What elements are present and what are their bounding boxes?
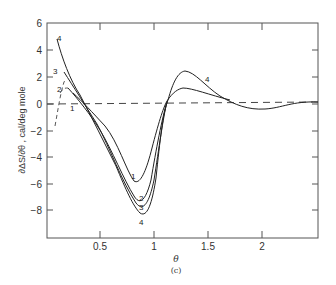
y-tick-label: 2 [36, 72, 42, 83]
y-tick-label: 6 [36, 18, 42, 29]
curve-label-1-min: 1 [131, 172, 136, 181]
curve-label-4-right: 4 [205, 75, 210, 84]
y-tick-label: −4 [31, 152, 43, 163]
curve-label-4-left: 4 [57, 34, 62, 43]
y-axis-right [312, 50, 318, 210]
curve-3 [64, 72, 167, 207]
x-tick-label: 1.5 [201, 241, 215, 252]
curve-label-3-left: 3 [53, 67, 58, 76]
y-tick-labels: 6 4 2 0 −2 −4 −6 −8 [31, 18, 43, 216]
chart: 6 4 2 0 −2 −4 −6 −8 0.5 1 1.5 2 ∂ΔS/∂θ ,… [0, 0, 336, 285]
y-axis-label: ∂ΔS/∂θ , cal/deg mole [17, 87, 27, 174]
y-tick-label: −6 [31, 179, 43, 190]
x-axis [100, 23, 262, 238]
zero-reference-line [47, 102, 318, 104]
curve-label-4-min: 4 [139, 218, 144, 227]
x-tick-label: 0.5 [93, 241, 107, 252]
plot-frame [47, 23, 318, 238]
y-tick-label: 0 [36, 99, 42, 110]
curve-4 [57, 39, 318, 214]
y-tick-label: −2 [31, 126, 43, 137]
y-tick-label: −8 [31, 205, 43, 216]
figure-caption: (c) [171, 266, 182, 275]
curve-label-3-min: 3 [139, 203, 144, 212]
y-tick-label: 4 [36, 45, 42, 56]
curve-label-1-left: 1 [70, 104, 75, 113]
x-tick-label: 2 [259, 241, 265, 252]
curve-2 [68, 88, 167, 201]
x-axis-label: θ [173, 254, 179, 264]
curve-1 [73, 88, 230, 182]
curve-label-2-left: 2 [57, 85, 62, 94]
curve-labels: 4 3 2 1 1 2 3 4 4 [53, 34, 210, 227]
curves [57, 39, 318, 214]
x-tick-label: 1 [151, 241, 157, 252]
x-tick-labels: 0.5 1 1.5 2 [93, 241, 265, 252]
curve-label-2-min: 2 [139, 194, 144, 203]
